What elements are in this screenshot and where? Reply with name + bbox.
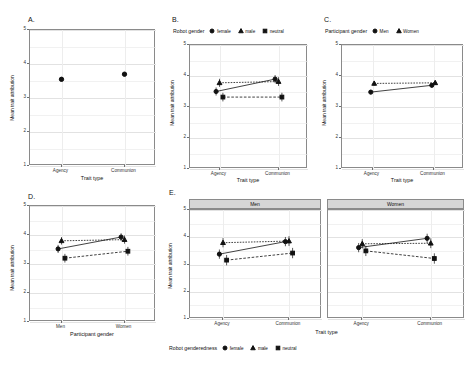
y-tick-mark bbox=[27, 29, 29, 30]
data-point-neutral bbox=[364, 249, 368, 253]
x-tick-label: Agency bbox=[192, 321, 252, 326]
x-tick-label: Agency bbox=[331, 321, 391, 326]
x-tick-label: Agency bbox=[31, 168, 91, 173]
y-tick-mark bbox=[187, 318, 189, 319]
data-point-female bbox=[119, 235, 123, 239]
y-tick-label: 4 bbox=[17, 231, 26, 236]
panel-d-plot-area bbox=[29, 205, 155, 321]
series-line-male bbox=[362, 243, 431, 244]
robot-gender-legend-item-female[interactable]: female bbox=[209, 28, 230, 34]
y-tick-label: 4 bbox=[177, 233, 186, 238]
data-point-Women bbox=[372, 81, 377, 85]
data-point-female bbox=[217, 252, 221, 256]
panel-c-plot-area bbox=[341, 44, 463, 168]
robot-genderedness-legend-item-neutral[interactable]: neutral bbox=[275, 345, 297, 351]
data-point-neutral bbox=[63, 256, 67, 260]
y-tick-mark bbox=[187, 106, 189, 107]
data-point-neutral bbox=[225, 258, 229, 262]
data-point-female bbox=[273, 77, 277, 81]
robot-genderedness-legend-item-male[interactable]: male bbox=[250, 345, 267, 351]
x-tick-mark bbox=[219, 168, 220, 170]
data-point-male bbox=[287, 239, 292, 243]
panel-e-y-label: Mean trait attribution bbox=[167, 236, 173, 296]
panel-e-plot-area-men bbox=[189, 209, 321, 318]
panel-e-legend: Robot genderedness femalemaleneutral bbox=[169, 345, 300, 351]
y-tick-mark bbox=[339, 44, 341, 45]
series-line-neutral bbox=[227, 253, 293, 260]
robot-gender-legend-label: female bbox=[217, 29, 231, 34]
y-tick-label: 5 bbox=[17, 26, 26, 31]
series-line-Men bbox=[371, 85, 432, 92]
series-layer bbox=[190, 210, 322, 319]
panel-e-facet-strip-men: Men bbox=[189, 199, 321, 209]
circle-marker-icon bbox=[209, 28, 215, 34]
gridline bbox=[30, 166, 156, 167]
robot-genderedness-legend-label: female bbox=[230, 346, 244, 351]
y-tick-label: 3 bbox=[329, 103, 338, 108]
gridline bbox=[342, 169, 464, 170]
panel-c-x-label: Trait type bbox=[341, 177, 463, 183]
y-tick-label: 2 bbox=[17, 128, 26, 133]
data-point-male bbox=[59, 238, 64, 242]
series-line-male bbox=[62, 240, 125, 241]
figure-root: A. Mean trait attribution Trait type 123… bbox=[0, 0, 470, 369]
participant-gender-legend-label: Men bbox=[380, 29, 389, 34]
series-layer bbox=[328, 210, 465, 319]
data-point-female bbox=[425, 236, 429, 240]
y-tick-label: 5 bbox=[177, 41, 186, 46]
panel-a-letter: A. bbox=[28, 16, 35, 23]
x-tick-mark bbox=[61, 321, 62, 323]
data-point-neutral bbox=[432, 257, 436, 261]
data-point-overall bbox=[122, 72, 126, 76]
data-point-male bbox=[217, 80, 222, 84]
panel-b-x-label: Trait type bbox=[189, 177, 307, 183]
y-tick-mark bbox=[27, 263, 29, 264]
robot-gender-legend-item-neutral[interactable]: neutral bbox=[262, 28, 284, 34]
x-tick-mark bbox=[430, 318, 431, 320]
data-point-female bbox=[56, 247, 60, 251]
y-tick-label: 2 bbox=[177, 288, 186, 293]
participant-gender-legend-item-Men[interactable]: Men bbox=[372, 28, 388, 34]
y-tick-label: 4 bbox=[17, 60, 26, 65]
x-tick-mark bbox=[124, 321, 125, 323]
panel-d-letter: D. bbox=[28, 193, 35, 200]
y-tick-mark bbox=[187, 137, 189, 138]
y-tick-mark bbox=[187, 75, 189, 76]
series-line-female bbox=[216, 79, 275, 91]
data-point-Women bbox=[433, 80, 438, 84]
robot-genderedness-legend-label: neutral bbox=[282, 346, 296, 351]
panel-a: A. Mean trait attribution Trait type 123… bbox=[0, 0, 160, 185]
x-tick-label: Communion bbox=[248, 171, 308, 176]
x-tick-mark bbox=[361, 318, 362, 320]
robot-genderedness-legend-item-female[interactable]: female bbox=[222, 345, 243, 351]
series-line-neutral bbox=[65, 251, 128, 258]
participant-gender-legend-item-Women[interactable]: Women bbox=[396, 28, 419, 34]
panel-c-letter: C. bbox=[324, 16, 331, 23]
y-tick-mark bbox=[187, 291, 189, 292]
series-line-neutral bbox=[366, 251, 435, 259]
y-tick-mark bbox=[187, 236, 189, 237]
panel-b-plot-area bbox=[189, 44, 307, 168]
y-tick-label: 4 bbox=[177, 72, 186, 77]
y-tick-label: 1 bbox=[329, 165, 338, 170]
y-tick-mark bbox=[187, 168, 189, 169]
x-tick-mark bbox=[278, 168, 279, 170]
y-tick-label: 3 bbox=[177, 261, 186, 266]
x-tick-label: Communion bbox=[403, 171, 463, 176]
triangle-marker-icon bbox=[396, 28, 402, 34]
y-tick-mark bbox=[27, 97, 29, 98]
y-tick-label: 5 bbox=[329, 41, 338, 46]
x-tick-mark bbox=[222, 318, 223, 320]
robot-gender-legend-label: neutral bbox=[270, 29, 284, 34]
triangle-marker-icon bbox=[238, 28, 244, 34]
x-tick-label: Agency bbox=[189, 171, 249, 176]
y-tick-label: 3 bbox=[17, 260, 26, 265]
x-tick-label: Women bbox=[94, 324, 154, 329]
panel-e-plot-area-women bbox=[327, 209, 464, 318]
x-tick-mark bbox=[433, 168, 434, 170]
robot-genderedness-legend-label: male bbox=[258, 346, 268, 351]
panel-d-x-label: Participant gender bbox=[29, 331, 155, 337]
series-line-female bbox=[58, 237, 121, 249]
robot-gender-legend-item-male[interactable]: male bbox=[238, 28, 255, 34]
panel-e-facet-label-women: Women bbox=[387, 201, 404, 207]
